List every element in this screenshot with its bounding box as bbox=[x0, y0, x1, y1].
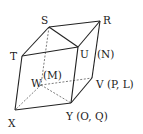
edge-x-y bbox=[15, 103, 71, 110]
edge-w-y bbox=[41, 85, 71, 103]
label-u: U bbox=[80, 48, 89, 60]
edge-t-u bbox=[22, 47, 78, 56]
label-m: (M) bbox=[43, 69, 62, 81]
label-y: Y (O, Q) bbox=[65, 110, 108, 122]
label-w: W bbox=[31, 77, 42, 89]
label-r: R bbox=[103, 14, 112, 26]
edge-s-r bbox=[49, 21, 100, 27]
edge-u-y bbox=[71, 47, 78, 103]
label-x: X bbox=[8, 117, 16, 129]
label-s: S bbox=[41, 14, 48, 26]
edge-s-u bbox=[49, 27, 78, 47]
edge-t-x bbox=[15, 56, 22, 110]
label-t: T bbox=[10, 50, 17, 62]
edge-s-t bbox=[22, 27, 49, 56]
label-n: (N) bbox=[97, 48, 114, 60]
polyhedron-diagram: S R T U (N) W (M) V (P, L) X Y (O, Q) bbox=[0, 0, 143, 134]
label-v: V (P, L) bbox=[95, 78, 134, 90]
